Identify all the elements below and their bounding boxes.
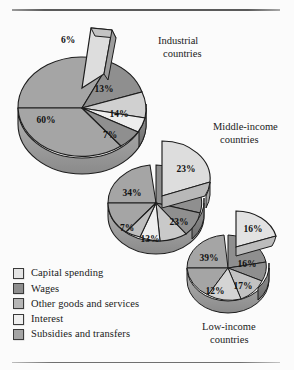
legend-item-capital-spending: Capital spending — [13, 266, 139, 281]
legend-swatch-subsidies-and-transfers — [13, 329, 24, 340]
legend-swatch-other-goods-and-services — [13, 298, 24, 309]
legend-label-other-goods-and-services: Other goods and services — [31, 299, 139, 310]
legend-label-interest: Interest — [31, 314, 63, 325]
legend-swatch-interest — [13, 314, 24, 325]
legend-label-wages: Wages — [31, 284, 59, 295]
chart-legend: Capital spending Wages Other goods and s… — [13, 266, 139, 342]
figure-panel: 6% 13% 14% 7% 60% Industrial countries — [0, 0, 294, 370]
title-industrial-line1: Industrial — [158, 35, 198, 46]
title-middle-line2: countries — [220, 134, 259, 145]
pct-middle-capital: 23% — [177, 164, 196, 174]
pct-industrial-subsidies: 60% — [37, 115, 56, 125]
pct-industrial-wages: 13% — [95, 84, 114, 94]
pct-industrial-other: 14% — [110, 109, 129, 119]
title-middle-line1: Middle-income — [213, 121, 278, 132]
pct-middle-other: 13% — [141, 234, 160, 244]
legend-swatch-capital-spending — [13, 268, 24, 279]
legend-item-subsidies-and-transfers: Subsidies and transfers — [13, 327, 139, 342]
title-industrial-line2: countries — [163, 48, 202, 59]
legend-item-interest: Interest — [13, 312, 139, 327]
pct-middle-subsidies: 34% — [123, 188, 142, 198]
legend-label-capital-spending: Capital spending — [31, 268, 103, 279]
legend-swatch-wages — [13, 283, 24, 294]
legend-item-other-goods-and-services: Other goods and services — [13, 296, 139, 311]
pct-low-wages: 16% — [238, 259, 257, 269]
pct-middle-wages: 23% — [170, 217, 189, 227]
pct-low-other: 17% — [234, 281, 253, 291]
legend-item-wages: Wages — [13, 281, 139, 296]
title-low-line1: Low-income — [202, 321, 256, 332]
pct-low-interest: 12% — [206, 286, 225, 296]
pct-low-capital: 16% — [244, 224, 263, 234]
pct-middle-interest: 7% — [120, 223, 134, 233]
pct-industrial-interest: 7% — [103, 130, 117, 140]
title-low-line2: countries — [210, 334, 249, 345]
pct-low-subsidies: 39% — [200, 253, 219, 263]
legend-label-subsidies-and-transfers: Subsidies and transfers — [31, 329, 130, 340]
pct-industrial-capital: 6% — [61, 35, 75, 45]
